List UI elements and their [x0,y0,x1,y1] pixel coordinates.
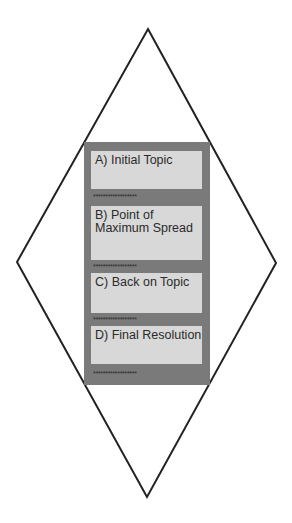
stage-b-box: B) Point of Maximum Spread [91,206,202,260]
stage-a-separator: ****************** [93,193,201,201]
stage-a-box: A) Initial Topic [91,151,202,189]
stage-c-separator: ****************** [93,316,201,324]
stage-d-box: D) Final Resolution [91,326,202,364]
stage-a-label: A) Initial Topic [95,153,173,167]
stage-b-separator: ****************** [93,263,201,271]
stage-d-label: D) Final Resolution [95,328,201,342]
stage-c-label: C) Back on Topic [95,275,189,289]
stages-panel: A) Initial Topic ****************** B) P… [84,142,210,385]
stage-b-label: B) Point of Maximum Spread [95,208,193,235]
stage-d-separator: ****************** [93,370,201,378]
stage-c-box: C) Back on Topic [91,273,202,313]
